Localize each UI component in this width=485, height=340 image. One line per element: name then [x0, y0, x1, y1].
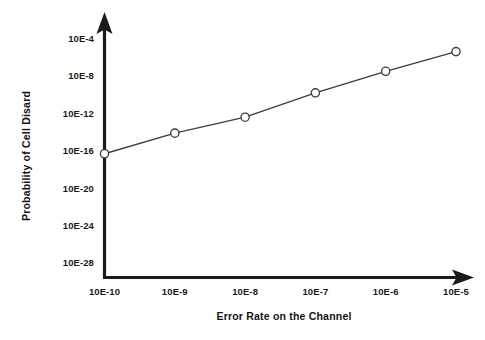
y-tick-label: 10E-12 — [34, 107, 94, 118]
data-point-marker — [382, 67, 390, 75]
y-tick-label: 10E-8 — [34, 70, 94, 81]
data-point-marker — [311, 89, 319, 97]
chart-figure: 10E-410E-810E-1210E-1610E-2010E-2410E-28… — [0, 0, 485, 340]
y-tick-label: 10E-20 — [34, 182, 94, 193]
series-line — [105, 52, 457, 154]
y-tick-label: 10E-24 — [34, 220, 94, 231]
data-series — [100, 48, 460, 158]
y-tick-label: 10E-28 — [34, 257, 94, 268]
x-tick-label: 10E-8 — [232, 286, 258, 297]
data-point-marker — [100, 150, 108, 158]
x-tick-label: 10E-7 — [302, 286, 328, 297]
y-tick-label: 10E-16 — [34, 145, 94, 156]
data-point-marker — [171, 129, 179, 137]
series-markers — [100, 48, 460, 158]
x-tick-label: 10E-6 — [373, 286, 399, 297]
x-tick-label: 10E-10 — [89, 286, 120, 297]
data-point-marker — [452, 48, 460, 56]
x-axis-title: Error Rate on the Channel — [104, 310, 464, 322]
y-tick-label: 10E-4 — [34, 32, 94, 43]
y-axis — [97, 12, 113, 277]
data-point-marker — [241, 113, 249, 121]
x-axis — [103, 270, 474, 286]
x-tick-label: 10E-9 — [162, 286, 188, 297]
y-axis-title: Probability of Cell Disard — [20, 56, 32, 256]
x-tick-label: 10E-5 — [443, 286, 469, 297]
